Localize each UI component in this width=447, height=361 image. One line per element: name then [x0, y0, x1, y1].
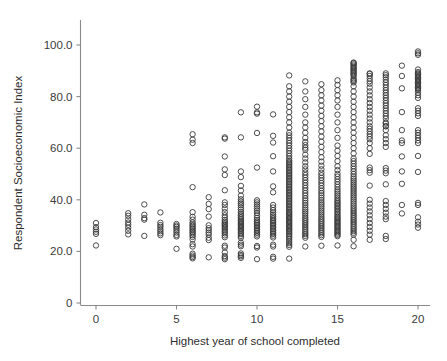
data-point [319, 134, 324, 139]
data-point [287, 104, 292, 109]
x-tick-label: 5 [173, 313, 179, 325]
data-point [319, 144, 324, 149]
y-tick-label: 40.0 [50, 194, 72, 206]
data-point [319, 103, 324, 108]
data-point [335, 112, 340, 117]
data-point [270, 133, 275, 138]
data-point [287, 73, 292, 78]
data-point [399, 211, 404, 216]
data-point [270, 154, 275, 159]
data-point [270, 140, 275, 145]
data-point [319, 82, 324, 87]
data-point [367, 151, 372, 156]
data-point [415, 153, 420, 158]
data-point [287, 120, 292, 125]
data-point [351, 146, 356, 151]
data-point [142, 233, 147, 238]
data-point [351, 130, 356, 135]
data-point [238, 174, 243, 179]
data-point [238, 110, 243, 115]
data-point [399, 86, 404, 91]
data-point [238, 135, 243, 140]
data-point [270, 112, 275, 117]
data-point [206, 255, 211, 260]
data-point [222, 172, 227, 177]
data-point [303, 112, 308, 117]
data-point [351, 115, 356, 120]
data-point [238, 169, 243, 174]
data-point [287, 115, 292, 120]
data-point [222, 167, 227, 172]
data-point [319, 98, 324, 103]
data-point [335, 135, 340, 140]
data-point [335, 243, 340, 248]
y-tick-label: 20.0 [50, 245, 72, 257]
data-point [399, 169, 404, 174]
data-point [270, 169, 275, 174]
data-point [335, 93, 340, 98]
data-point [351, 89, 356, 94]
y-tick-label: 100.0 [44, 39, 73, 51]
data-point [335, 104, 340, 109]
data-point [174, 246, 179, 251]
data-point [335, 148, 340, 153]
data-point [319, 118, 324, 123]
data-point [319, 139, 324, 144]
data-point [303, 89, 308, 94]
data-point [319, 87, 324, 92]
data-point [287, 109, 292, 114]
data-point-layer [93, 49, 420, 262]
y-tick-label: 60.0 [50, 142, 72, 154]
data-point [303, 104, 308, 109]
plot-canvas: 020.040.060.080.0100.0 05101520 Highest … [0, 0, 447, 361]
data-point [383, 133, 388, 138]
data-point [399, 127, 404, 132]
data-point [254, 256, 259, 261]
data-point [222, 188, 227, 193]
data-point [351, 109, 356, 114]
data-point [335, 143, 340, 148]
data-point [303, 96, 308, 101]
scatter-plot-figure: 020.040.060.080.0100.0 05101520 Highest … [0, 0, 447, 361]
data-point [206, 195, 211, 200]
data-point [287, 89, 292, 94]
data-point [303, 120, 308, 125]
data-point [206, 214, 211, 219]
data-point [142, 202, 147, 207]
data-point [254, 165, 259, 170]
data-point [319, 124, 324, 129]
data-point [303, 130, 308, 135]
data-point [319, 129, 324, 134]
data-point [158, 210, 163, 215]
y-tick-label: 80.0 [50, 91, 72, 103]
data-point [351, 151, 356, 156]
data-point [254, 104, 259, 109]
data-point [335, 87, 340, 92]
data-point [351, 94, 356, 99]
data-point [190, 137, 195, 142]
data-point [287, 99, 292, 104]
data-point [254, 130, 259, 135]
data-point [415, 169, 420, 174]
data-point [351, 244, 356, 249]
data-point [93, 220, 98, 225]
x-axis-ticks: 05101520 [93, 306, 425, 325]
data-point [270, 190, 275, 195]
data-point [399, 109, 404, 114]
data-point [335, 158, 340, 163]
data-point [287, 256, 292, 261]
data-point [335, 120, 340, 125]
data-point [319, 108, 324, 113]
data-point [367, 197, 372, 202]
data-point [190, 184, 195, 189]
data-point [367, 146, 372, 151]
data-point [287, 125, 292, 130]
data-point [270, 184, 275, 189]
data-point [206, 201, 211, 206]
y-axis-ticks: 020.040.060.080.0100.0 [44, 39, 81, 309]
x-tick-label: 20 [412, 313, 425, 325]
data-point [351, 237, 356, 242]
data-point [351, 135, 356, 140]
x-tick-label: 15 [331, 313, 344, 325]
data-point [287, 94, 292, 99]
